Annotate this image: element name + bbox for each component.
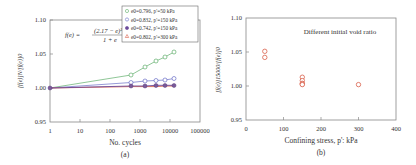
legend-item-4: e0=0.802, p'=300 kPa — [131, 34, 178, 40]
xlabel-b: Confining stress, p': kPa — [284, 136, 358, 145]
chart-b-title: Different initial void ratio — [304, 28, 377, 36]
x-axis-b: 0 100 200 300 400 — [244, 117, 401, 132]
xtick-b-400: 400 — [391, 125, 401, 132]
ytick-b-0.95: 0.95 — [231, 116, 242, 123]
ytick-a-1.10: 1.10 — [35, 16, 46, 23]
svg-text:1 + e: 1 + e — [103, 36, 117, 43]
xtick-b-0: 0 — [244, 125, 247, 132]
ytick-b-1.10: 1.10 — [231, 14, 242, 21]
xtick-a-10: 10 — [77, 127, 84, 134]
ytick-b-1.05: 1.05 — [231, 48, 242, 55]
formula-annotation: f(e) = (2.17 − e)² 1 + e — [65, 27, 126, 43]
legend-item-3: e0=0.742, p'=150 kPa — [131, 25, 178, 31]
xtick-a-100000: 100000 — [190, 127, 210, 134]
ytick-b-1.00: 1.00 — [231, 82, 242, 89]
svg-text:f(e) =: f(e) = — [65, 31, 80, 39]
xtick-b-200: 200 — [316, 125, 326, 132]
legend-item-1: e0=0.796, p'=50 kPa — [131, 8, 175, 14]
xtick-a-100: 100 — [105, 127, 115, 134]
xtick-a-1000: 1000 — [134, 127, 147, 134]
ylabel-b: [f(e)]15000/[f(e)]0 — [215, 47, 222, 93]
xtick-b-300: 300 — [354, 125, 364, 132]
chart-b: 1.10 1.05 1.00 0.95 [f(e)]15000/[f(e)]0 … — [210, 0, 416, 165]
xtick-a-1: 1 — [48, 127, 51, 134]
svg-text:(2.17 − e)²: (2.17 − e)² — [94, 27, 123, 35]
xlabel-a: No. cycles — [109, 138, 141, 147]
x-axis-a: 1 10 100 1000 10000 100000 — [48, 119, 209, 134]
legend-a: e0=0.796, p'=50 kPa e0=0.832, p'=150 kPa… — [122, 6, 198, 42]
chart-a: 1.10 1.05 1.00 0.95 [f(e)]N/[f(e)]0 1 10… — [0, 0, 210, 165]
legend-item-2: e0=0.832, p'=150 kPa — [131, 17, 178, 23]
panel-label-a: (a) — [121, 150, 130, 159]
xtick-a-10000: 10000 — [162, 127, 178, 134]
ytick-a-0.95: 0.95 — [35, 118, 46, 125]
ytick-a-1.00: 1.00 — [35, 84, 46, 91]
panel-label-b: (b) — [317, 148, 326, 157]
xtick-b-100: 100 — [279, 125, 289, 132]
series-a — [48, 50, 176, 90]
scatter-b — [263, 49, 361, 87]
ytick-a-1.05: 1.05 — [35, 50, 46, 57]
ylabel-a: [f(e)]N/[f(e)]0 — [17, 54, 24, 89]
